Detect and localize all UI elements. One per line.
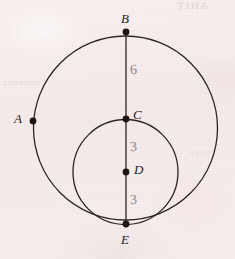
point-a-marker <box>30 118 37 125</box>
point-e-marker <box>123 221 130 228</box>
point-label-d: D <box>134 163 143 176</box>
point-d-marker <box>123 169 130 176</box>
geometry-diagram <box>0 0 235 259</box>
figure-page: AHIT nnnnnnn nnnn B A C D E 6 3 3 <box>0 0 235 259</box>
point-label-b: B <box>121 12 129 25</box>
point-b-marker <box>123 29 130 36</box>
point-label-a: A <box>14 112 22 125</box>
point-label-c: C <box>133 108 142 121</box>
measurement-label-de: 3 <box>130 193 138 207</box>
point-label-e: E <box>121 233 129 246</box>
measurement-label-cd: 3 <box>130 140 138 154</box>
measurement-label-bc: 6 <box>130 63 138 77</box>
point-c-marker <box>123 116 130 123</box>
